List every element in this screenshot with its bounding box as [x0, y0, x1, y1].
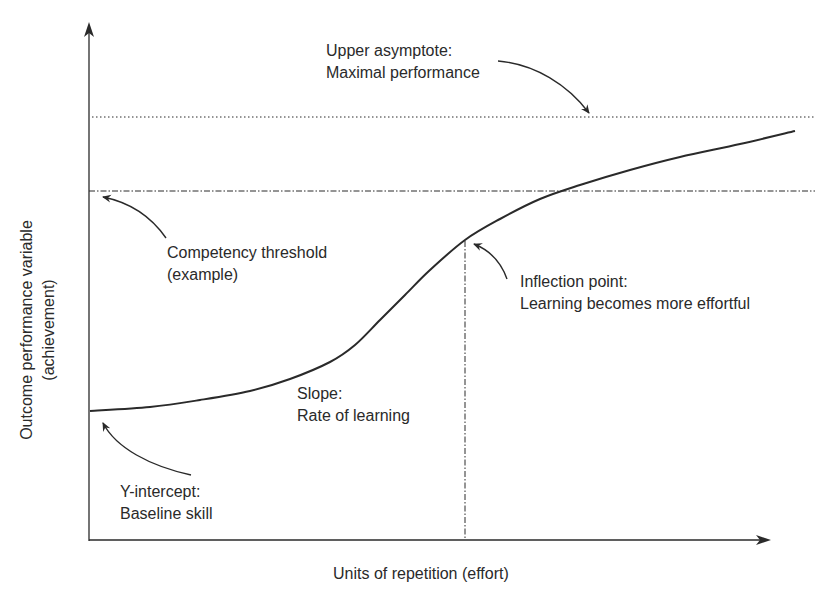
slope-desc: Rate of learning — [297, 405, 410, 427]
inflection-point-label: Inflection point: Learning becomes more … — [520, 271, 750, 315]
y-intercept-label: Y-intercept: Baseline skill — [120, 481, 212, 525]
y-axis-label-line2: (achievement) — [38, 160, 60, 500]
inflection-point-arrow-icon — [474, 244, 507, 279]
competency-threshold-label: Competency threshold (example) — [167, 242, 327, 286]
upper-asymptote-desc: Maximal performance — [326, 62, 480, 84]
upper-asymptote-label: Upper asymptote: Maximal performance — [326, 40, 480, 84]
competency-threshold-desc: (example) — [167, 264, 327, 286]
inflection-point-desc: Learning becomes more effortful — [520, 293, 750, 315]
y-axis-label: Outcome performance variable (achievemen… — [16, 160, 60, 500]
slope-label: Slope: Rate of learning — [297, 383, 410, 427]
competency-threshold-title: Competency threshold — [167, 242, 327, 264]
y-axis-label-line1: Outcome performance variable — [16, 160, 38, 500]
y-intercept-title: Y-intercept: — [120, 481, 212, 503]
upper-asymptote-title: Upper asymptote: — [326, 40, 480, 62]
y-intercept-arrow-icon — [103, 423, 191, 475]
y-intercept-desc: Baseline skill — [120, 503, 212, 525]
slope-title: Slope: — [297, 383, 410, 405]
upper-asymptote-arrow-icon — [498, 61, 589, 113]
inflection-point-title: Inflection point: — [520, 271, 750, 293]
x-axis-label: Units of repetition (effort) — [333, 563, 509, 585]
competency-threshold-arrow-icon — [103, 197, 166, 238]
